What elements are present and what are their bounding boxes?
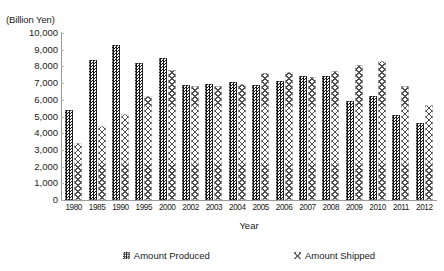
y-tick-label: 1,000 — [4, 178, 58, 188]
bar-produced — [205, 84, 213, 200]
x-tick-label: 2007 — [296, 202, 319, 213]
x-tick-label: 2004 — [226, 202, 249, 213]
y-tick-mark — [61, 83, 64, 84]
x-tick-label: 2000 — [156, 202, 179, 213]
y-tick-mark — [61, 100, 64, 101]
bar-shipped — [308, 77, 316, 200]
x-tick-label: 2006 — [272, 202, 295, 213]
bar-produced — [252, 85, 260, 200]
bar-group — [132, 33, 155, 200]
x-tick-label: 2011 — [389, 202, 412, 213]
bar-group — [179, 33, 202, 200]
legend-swatch-produced-icon — [123, 252, 130, 259]
bar-produced — [65, 110, 73, 200]
y-tick-mark — [61, 150, 64, 151]
y-tick-mark — [61, 167, 64, 168]
x-tick-label: 2003 — [202, 202, 225, 213]
bar-produced — [322, 76, 330, 200]
y-tick-mark — [61, 50, 64, 51]
y-tick-mark — [61, 33, 64, 34]
bar-produced — [135, 63, 143, 200]
x-tick-label: 1985 — [85, 202, 108, 213]
bar-groups — [62, 33, 436, 200]
y-tick-label: 4,000 — [4, 128, 58, 138]
legend-label: Amount Produced — [134, 250, 210, 261]
bar-shipped — [331, 71, 339, 200]
bar-produced — [392, 115, 400, 200]
x-tick-label: 2005 — [249, 202, 272, 213]
y-tick-label: 6,000 — [4, 95, 58, 105]
y-tick-label: 8,000 — [4, 61, 58, 71]
bar-produced — [276, 81, 284, 200]
bar-group — [366, 33, 389, 200]
y-tick-label: 2,000 — [4, 162, 58, 172]
bar-shipped — [285, 72, 293, 200]
y-tick-label: 7,000 — [4, 78, 58, 88]
bar-group — [85, 33, 108, 200]
bar-group — [343, 33, 366, 200]
bar-shipped — [214, 86, 222, 200]
y-tick-label: 5,000 — [4, 112, 58, 122]
y-tick-mark — [61, 66, 64, 67]
bar-group — [202, 33, 225, 200]
x-axis-tick-labels: 1980198519901995200020022003200420052006… — [62, 202, 436, 213]
bar-produced — [159, 58, 167, 200]
bar-group — [249, 33, 272, 200]
legend-item: Amount Shipped — [294, 250, 375, 261]
bar-shipped — [168, 70, 176, 200]
bar-group — [296, 33, 319, 200]
bar-group — [389, 33, 412, 200]
bar-shipped — [261, 73, 269, 200]
bar-produced — [299, 76, 307, 200]
y-tick-label: 10,000 — [4, 28, 58, 38]
bar-shipped — [401, 86, 409, 200]
y-tick-mark — [61, 117, 64, 118]
y-tick-mark — [61, 133, 64, 134]
bar-group — [62, 33, 85, 200]
bar-shipped — [74, 143, 82, 200]
bar-group — [272, 33, 295, 200]
bar-produced — [346, 101, 354, 200]
y-tick-mark — [61, 200, 64, 201]
bar-shipped — [378, 61, 386, 200]
chart-legend: Amount ProducedAmount Shipped — [62, 250, 436, 261]
legend-item: Amount Produced — [123, 250, 210, 261]
y-tick-label: 0 — [4, 195, 58, 205]
bar-produced — [229, 82, 237, 200]
bar-shipped — [425, 105, 433, 200]
bar-produced — [182, 85, 190, 200]
bar-produced — [112, 45, 120, 200]
bar-produced — [369, 96, 377, 200]
x-axis-title: Year — [62, 220, 436, 231]
y-tick-label: 9,000 — [4, 45, 58, 55]
bar-shipped — [355, 65, 363, 200]
legend-label: Amount Shipped — [305, 250, 375, 261]
bar-produced — [416, 123, 424, 200]
x-tick-label: 1990 — [109, 202, 132, 213]
bar-produced — [89, 60, 97, 200]
y-tick-mark — [61, 183, 64, 184]
x-tick-label: 2009 — [343, 202, 366, 213]
bar-group — [319, 33, 342, 200]
bar-group — [109, 33, 132, 200]
bar-group — [226, 33, 249, 200]
x-axis-line — [61, 200, 437, 201]
bar-shipped — [191, 86, 199, 200]
legend-swatch-shipped-icon — [294, 252, 301, 259]
x-tick-label: 2012 — [413, 202, 436, 213]
bar-shipped — [98, 126, 106, 200]
bar-chart: (Billion Yen) 10,0009,0008,0007,0006,000… — [0, 0, 444, 271]
bar-group — [156, 33, 179, 200]
x-tick-label: 2008 — [319, 202, 342, 213]
y-axis-tick-labels: 10,0009,0008,0007,0006,0005,0004,0003,00… — [0, 0, 58, 271]
bar-shipped — [238, 84, 246, 200]
y-tick-label: 3,000 — [4, 145, 58, 155]
x-tick-label: 1980 — [62, 202, 85, 213]
bar-shipped — [144, 96, 152, 200]
x-tick-label: 2002 — [179, 202, 202, 213]
x-tick-label: 2010 — [366, 202, 389, 213]
x-tick-label: 1995 — [132, 202, 155, 213]
bar-group — [413, 33, 436, 200]
bar-shipped — [121, 114, 129, 200]
